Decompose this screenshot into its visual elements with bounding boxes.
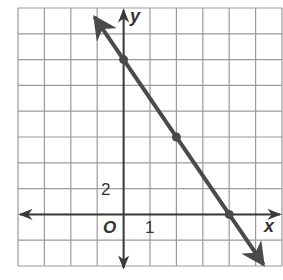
y-axis-label: y xyxy=(129,6,141,26)
labels: x y O 1 2 xyxy=(101,6,275,237)
origin-label: O xyxy=(103,218,116,237)
data-point xyxy=(225,210,234,219)
y-tick-label: 2 xyxy=(101,180,110,199)
graph-canvas: x y O 1 2 xyxy=(0,0,283,280)
series xyxy=(95,17,264,265)
x-tick-label: 1 xyxy=(145,218,154,237)
x-axis-label: x xyxy=(263,216,275,236)
data-point xyxy=(119,55,128,64)
series-line xyxy=(95,17,264,265)
data-point xyxy=(172,133,181,142)
